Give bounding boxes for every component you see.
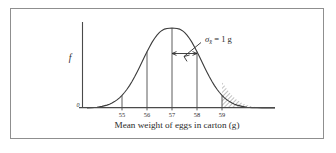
- x-tick-label-56: 56: [144, 111, 150, 118]
- sigma-annotation-label: σx̄ = 1 g: [205, 34, 233, 45]
- x-tick-label-55: 55: [119, 111, 125, 118]
- annotation-leader-arrowhead: [184, 55, 190, 61]
- x-tick-label-58: 58: [194, 111, 200, 118]
- normal-curve: [87, 28, 275, 108]
- y-axis-label: f: [69, 53, 73, 63]
- normal-distribution-chart: 55 56 57 58 59 Mean weight of eggs in ca…: [0, 0, 336, 153]
- x-axis-title: Mean weight of eggs in carton (g): [114, 120, 239, 130]
- x-tick-label-59: 59: [219, 111, 225, 118]
- figure-root: 55 56 57 58 59 Mean weight of eggs in ca…: [0, 0, 336, 153]
- x-tick-label-57: 57: [169, 111, 176, 118]
- sigma-value: = 1 g: [212, 34, 233, 44]
- origin-label: 0: [77, 102, 80, 108]
- shaded-tail-region: [222, 82, 275, 108]
